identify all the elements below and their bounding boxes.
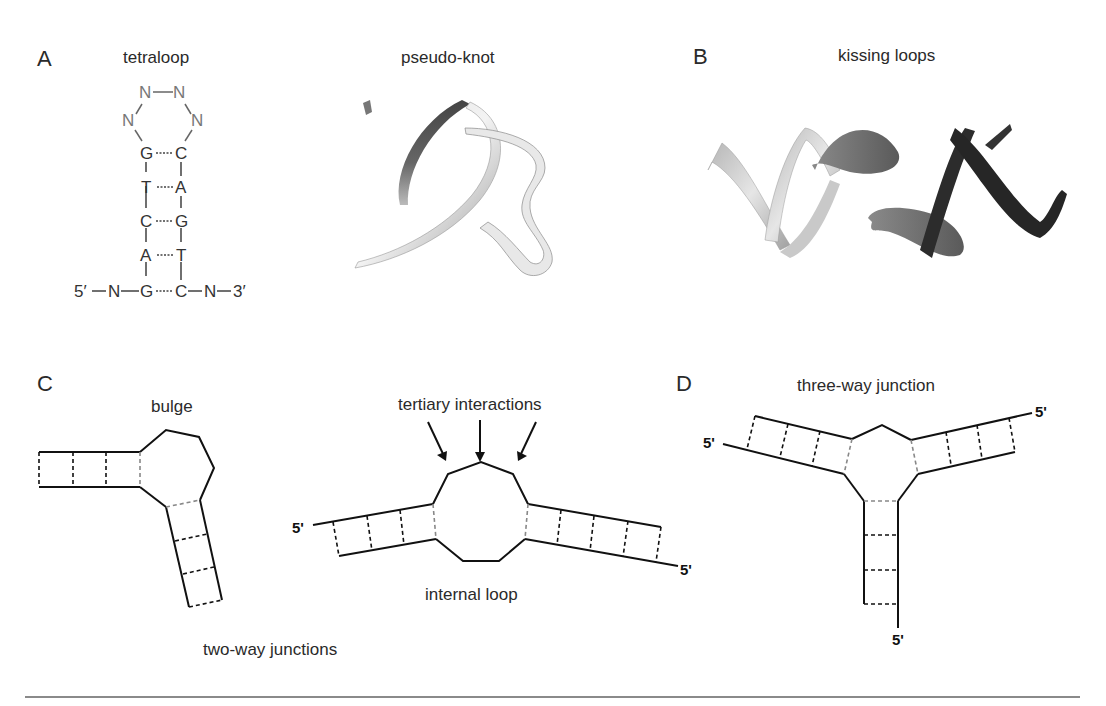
page-divider <box>25 696 1080 698</box>
five-prime-end: 5' <box>1035 403 1047 420</box>
five-prime-end: 5' <box>892 631 904 648</box>
five-prime-end: 5' <box>703 434 715 451</box>
three-way-junction-diagram: 5' 5' 5' <box>0 0 1106 706</box>
